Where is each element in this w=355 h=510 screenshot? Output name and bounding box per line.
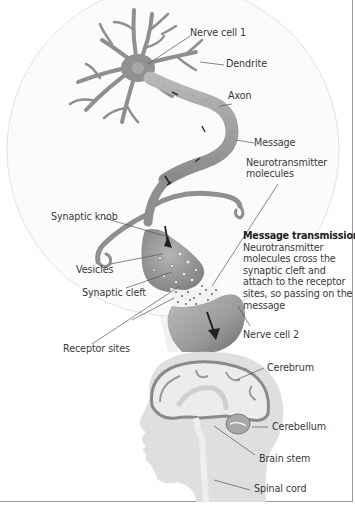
label-axon: Axon <box>228 90 252 101</box>
label-synaptic-cleft: Synaptic cleft <box>82 287 146 298</box>
label-dendrite: Dendrite <box>226 58 267 69</box>
label-spinal-cord: Spinal cord <box>254 483 306 494</box>
label-cerebrum: Cerebrum <box>267 362 314 373</box>
label-neurotransmitter-2: molecules <box>246 168 294 179</box>
label-nerve-cell-1: Nerve cell 1 <box>190 27 246 38</box>
label-nerve-cell-2: Nerve cell 2 <box>243 329 299 340</box>
message-transmission-callout: Message transmission Neurotransmitter mo… <box>243 230 355 311</box>
label-message: Message <box>254 137 295 148</box>
nucleus <box>132 62 144 74</box>
label-synaptic-knob: Synaptic knob <box>51 211 118 222</box>
label-neurotransmitter-1: Neurotransmitter <box>246 157 327 168</box>
label-brain-stem: Brain stem <box>259 453 310 464</box>
callout-title: Message transmission <box>243 230 355 242</box>
callout-body: Neurotransmitter molecules cross the syn… <box>243 242 355 312</box>
label-receptor-sites: Receptor sites <box>63 343 130 354</box>
label-cerebellum: Cerebellum <box>272 421 326 432</box>
label-vesicles: Vesicles <box>76 264 113 275</box>
cerebellum-shape <box>226 414 250 434</box>
